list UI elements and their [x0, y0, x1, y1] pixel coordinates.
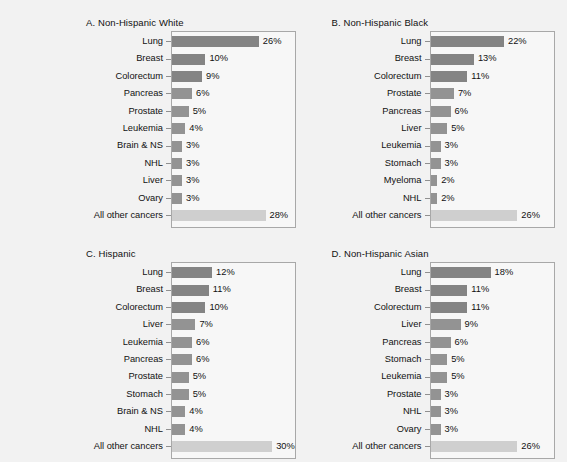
- bar: [431, 302, 468, 313]
- bar-row: Liver5%: [284, 120, 567, 137]
- bar-value-label: 3%: [445, 407, 458, 416]
- bar-row: Breast11%: [0, 281, 284, 298]
- panel-b-title: B. Non-Hispanic Black: [332, 17, 429, 28]
- axis-tick: [425, 324, 430, 325]
- bar: [431, 354, 448, 365]
- panel-c-title: C. Hispanic: [86, 248, 136, 259]
- bar-value-label: 4%: [189, 124, 202, 133]
- bar-category-label: Liver: [284, 124, 422, 133]
- bar-category-label: Lung: [284, 268, 422, 277]
- axis-tick: [166, 342, 171, 343]
- bar: [172, 123, 185, 134]
- bar: [431, 285, 468, 296]
- bar: [172, 372, 189, 383]
- bar: [431, 193, 438, 204]
- bar-category-label: Pancreas: [284, 338, 422, 347]
- bar-row: All other cancers28%: [0, 207, 284, 224]
- bar-row: Pancreas6%: [284, 103, 567, 120]
- axis-tick: [425, 290, 430, 291]
- bar-category-label: NHL: [0, 159, 163, 168]
- bar-row: Myeloma2%: [284, 172, 567, 189]
- bar-value-label: 4%: [189, 425, 202, 434]
- bar: [172, 175, 182, 186]
- bar-row: All other cancers30%: [0, 438, 284, 455]
- bar: [172, 389, 189, 400]
- bar: [431, 141, 441, 152]
- bar: [172, 354, 192, 365]
- bar-row: Prostate5%: [0, 368, 284, 385]
- bar-row: NHL4%: [0, 421, 284, 438]
- bar-value-label: 3%: [445, 425, 458, 434]
- bar-row: Prostate7%: [284, 85, 567, 102]
- bar-category-label: Stomach: [284, 355, 422, 364]
- axis-tick: [425, 215, 430, 216]
- bar-value-label: 22%: [508, 37, 527, 46]
- bar-value-label: 5%: [451, 124, 464, 133]
- bar: [172, 285, 209, 296]
- bar-row: Leukemia3%: [284, 137, 567, 154]
- axis-tick: [166, 377, 171, 378]
- bar: [431, 106, 451, 117]
- bar-category-label: Breast: [284, 54, 422, 63]
- bar-category-label: Pancreas: [0, 89, 163, 98]
- bar-row: NHL3%: [284, 403, 567, 420]
- bar: [431, 210, 518, 221]
- bar: [172, 424, 185, 435]
- bar-category-label: Leukemia: [284, 141, 422, 150]
- axis-tick: [166, 76, 171, 77]
- bar-row: Breast13%: [284, 50, 567, 67]
- bar-row: Ovary3%: [284, 421, 567, 438]
- bar-value-label: 6%: [455, 338, 468, 347]
- bar-value-label: 3%: [186, 176, 199, 185]
- bar-category-label: Prostate: [0, 372, 163, 381]
- bar-category-label: Leukemia: [0, 124, 163, 133]
- bar-row: Prostate5%: [0, 103, 284, 120]
- bar-value-label: 7%: [199, 320, 212, 329]
- bar: [431, 441, 518, 452]
- bar-row: Prostate3%: [284, 386, 567, 403]
- axis-tick: [425, 198, 430, 199]
- panel-b-bar-rows: Lung22%Breast13%Colorectum11%Prostate7%P…: [284, 33, 567, 226]
- bar-value-label: 3%: [186, 159, 199, 168]
- bar-row: NHL3%: [0, 155, 284, 172]
- bar-category-label: Colorectum: [0, 72, 163, 81]
- panel-a-bar-rows: Lung26%Breast10%Colorectum9%Pancreas6%Pr…: [0, 33, 284, 226]
- bar-row: Colorectum11%: [284, 68, 567, 85]
- axis-tick: [425, 59, 430, 60]
- axis-tick: [425, 411, 430, 412]
- bar: [172, 193, 182, 204]
- bar-category-label: Colorectum: [284, 72, 422, 81]
- bar: [172, 36, 259, 47]
- panel-b-non-hispanic-black: B. Non-Hispanic Black Lung22%Breast13%Co…: [284, 0, 567, 231]
- axis-tick: [425, 342, 430, 343]
- bar-value-label: 11%: [471, 285, 489, 294]
- bar-row: All other cancers26%: [284, 438, 567, 455]
- bar-row: Pancreas6%: [0, 351, 284, 368]
- axis-tick: [425, 93, 430, 94]
- bar-category-label: Stomach: [284, 159, 422, 168]
- bar-category-label: All other cancers: [284, 442, 422, 451]
- bar-row: Colorectum10%: [0, 299, 284, 316]
- bar: [172, 54, 205, 65]
- axis-tick: [425, 446, 430, 447]
- bar-value-label: 4%: [189, 407, 202, 416]
- bar-value-label: 7%: [458, 89, 471, 98]
- bar-value-label: 3%: [186, 194, 199, 203]
- panel-c-hispanic: C. Hispanic Lung12%Breast11%Colorectum10…: [0, 231, 284, 462]
- cancer-death-distribution-figure: A. Non-Hispanic White Lung26%Breast10%Co…: [0, 0, 567, 462]
- axis-tick: [166, 93, 171, 94]
- bar-row: Pancreas6%: [284, 334, 567, 351]
- bar: [172, 71, 202, 82]
- axis-tick: [425, 180, 430, 181]
- bar-category-label: All other cancers: [284, 211, 422, 220]
- bar-category-label: Colorectum: [0, 303, 163, 312]
- bar-category-label: Liver: [0, 176, 163, 185]
- bar: [172, 210, 266, 221]
- bar-category-label: Breast: [0, 285, 163, 294]
- axis-tick: [166, 429, 171, 430]
- bar-row: Liver3%: [0, 172, 284, 189]
- bar-value-label: 11%: [471, 72, 489, 81]
- bar-value-label: 3%: [445, 390, 458, 399]
- bar-row: Brain & NS4%: [0, 403, 284, 420]
- panel-a-non-hispanic-white: A. Non-Hispanic White Lung26%Breast10%Co…: [0, 0, 284, 231]
